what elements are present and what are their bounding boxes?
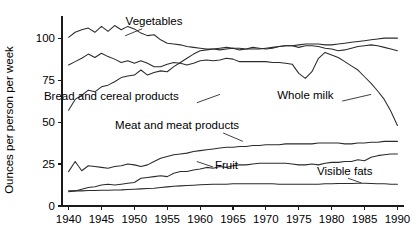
annotation-leader-line [223, 133, 243, 141]
x-tick-label: 1970 [253, 213, 279, 225]
chart-canvas: 0255075100 19401945195019551960196519701… [0, 0, 416, 237]
food-consumption-line-chart: 0255075100 19401945195019551960196519701… [0, 0, 416, 237]
x-axis: 1940194519501955196019651970197519801985… [56, 206, 410, 225]
series-label-vegetables: Vegetables [126, 15, 183, 27]
y-axis-title: Ounces per person per week [3, 46, 15, 194]
x-tick-label: 1950 [122, 213, 148, 225]
series-label-meat-and-meat-products: Meat and meat products [115, 119, 239, 131]
x-tick-label: 1980 [319, 213, 345, 225]
x-tick-label: 1955 [154, 213, 180, 225]
y-tick-label: 25 [42, 158, 55, 170]
annotation-leader-line [197, 94, 220, 102]
series-label-bread-and-cereal-products: Bread and cereal products [44, 90, 179, 102]
series-line-whole-milk [69, 52, 398, 125]
series-label-fruit: Fruit [215, 159, 239, 171]
x-tick-label: 1965 [220, 213, 246, 225]
x-tick-label: 1945 [89, 213, 115, 225]
x-tick-label: 1985 [352, 213, 378, 225]
y-tick-label: 50 [42, 116, 55, 128]
series-annotations: VegetablesWhole milkBread and cereal pro… [44, 15, 373, 183]
annotation-leader-line [197, 162, 213, 168]
annotation-leader-line [348, 178, 361, 183]
y-tick-label: 0 [49, 200, 55, 212]
series-line-vegetables [69, 26, 398, 51]
y-tick-label: 100 [36, 32, 55, 44]
annotation-leader-line [342, 94, 371, 101]
series-label-whole-milk: Whole milk [277, 89, 333, 101]
y-tick-label: 75 [42, 74, 55, 86]
y-axis: 0255075100 [36, 16, 62, 212]
series-label-visible-fats: Visible fats [317, 165, 373, 177]
x-tick-label: 1960 [187, 213, 213, 225]
x-tick-label: 1990 [385, 213, 411, 225]
x-tick-label: 1940 [56, 213, 82, 225]
x-tick-label: 1975 [286, 213, 312, 225]
